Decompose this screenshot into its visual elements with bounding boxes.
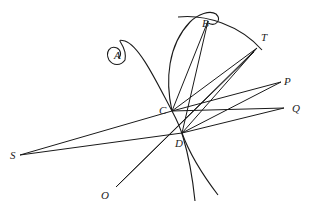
label-D: D	[174, 137, 183, 149]
segment-D-Q	[182, 108, 284, 133]
label-S: S	[10, 149, 16, 161]
segment-S-C	[20, 111, 172, 155]
label-Q: Q	[292, 102, 300, 114]
segment-S-D	[20, 133, 182, 155]
geometric-diagram: A B T P Q C D S O	[0, 0, 310, 211]
label-A: A	[113, 49, 121, 61]
label-O: O	[101, 189, 109, 201]
label-P: P	[283, 75, 291, 87]
label-B: B	[202, 17, 209, 29]
segment-O-T-via-D	[116, 52, 254, 187]
curve-C-to-B-loop	[169, 12, 219, 111]
curve-D-lower	[182, 133, 218, 195]
label-C: C	[159, 104, 167, 116]
curve-A-spiral	[108, 40, 195, 201]
label-T: T	[261, 31, 268, 43]
